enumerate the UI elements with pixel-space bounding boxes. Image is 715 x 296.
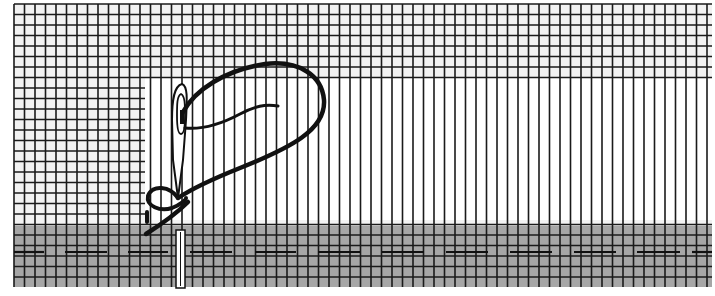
pulled-thread-diagram [0, 0, 715, 296]
needle-lower-icon [176, 230, 185, 288]
withdrawn-area [145, 78, 712, 220]
embroidery-illustration [0, 0, 715, 296]
